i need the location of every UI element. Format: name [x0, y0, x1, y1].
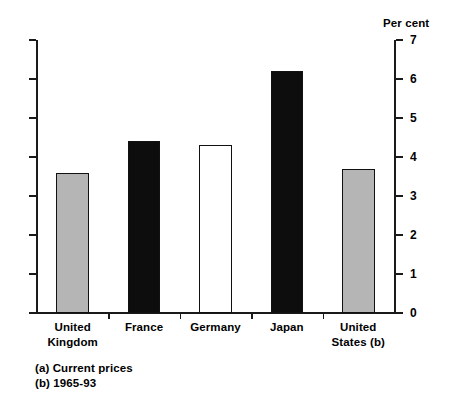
y-tick-right-6	[396, 78, 403, 80]
bar-chart: Per cent 01234567 United KingdomFranceGe…	[0, 0, 468, 412]
y-tick-left-7	[29, 39, 36, 41]
x-category-label-1: France	[108, 320, 179, 335]
category-separator-tick-0	[108, 313, 110, 319]
y-tick-label-1: 1	[410, 268, 417, 280]
y-tick-left-1	[29, 273, 36, 275]
y-tick-right-1	[396, 273, 403, 275]
left-axis-spine	[36, 40, 38, 314]
y-tick-label-5: 5	[410, 112, 417, 124]
y-tick-label-3: 3	[410, 190, 417, 202]
footnote-b: (b) 1965-93	[35, 376, 133, 391]
y-tick-left-3	[29, 195, 36, 197]
y-tick-label-0: 0	[410, 307, 417, 319]
footnote-a: (a) Current prices	[35, 361, 133, 376]
footnotes: (a) Current prices (b) 1965-93	[35, 361, 133, 391]
y-tick-left-6	[29, 78, 36, 80]
y-tick-left-5	[29, 117, 36, 119]
y-tick-right-5	[396, 117, 403, 119]
bar-germany	[199, 145, 232, 313]
y-tick-right-3	[396, 195, 403, 197]
y-tick-label-4: 4	[410, 151, 417, 163]
x-category-label-0: United Kingdom	[37, 320, 108, 349]
y-tick-label-6: 6	[410, 73, 417, 85]
bar-united-states-b	[342, 169, 375, 313]
y-tick-left-0	[29, 312, 36, 314]
y-tick-left-4	[29, 156, 36, 158]
x-category-label-4: United States (b)	[323, 320, 394, 349]
x-category-label-3: Japan	[251, 320, 322, 335]
category-separator-tick-1	[180, 313, 182, 319]
category-separator-tick-2	[251, 313, 253, 319]
axis-unit-label: Per cent	[383, 17, 429, 29]
category-separator-tick-3	[323, 313, 325, 319]
bar-japan	[271, 71, 304, 313]
y-tick-right-0	[396, 312, 403, 314]
x-category-label-2: Germany	[180, 320, 251, 335]
y-tick-right-4	[396, 156, 403, 158]
y-tick-left-2	[29, 234, 36, 236]
y-tick-right-2	[396, 234, 403, 236]
bar-united-kingdom	[56, 173, 89, 314]
y-tick-right-7	[396, 39, 403, 41]
y-tick-label-2: 2	[410, 229, 417, 241]
y-tick-label-7: 7	[410, 34, 417, 46]
bar-france	[128, 141, 161, 313]
